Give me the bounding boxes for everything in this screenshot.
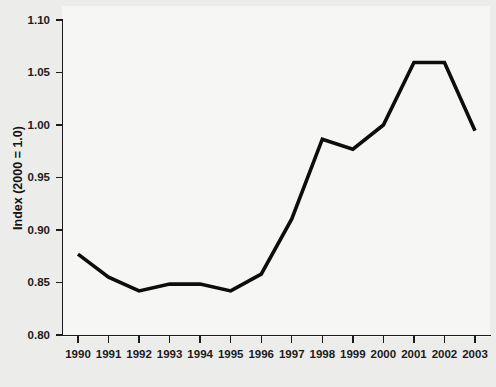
x-tick-label: 2002	[432, 348, 458, 360]
y-axis-title-text: Index (2000 = 1.0)	[11, 126, 25, 230]
data-series-line	[78, 63, 475, 291]
x-tick-label: 1992	[126, 348, 152, 360]
x-tick-label: 1991	[96, 348, 122, 360]
x-axis-ticks	[78, 336, 475, 344]
y-tick-label: 0.85	[28, 276, 51, 288]
y-tick-label: 0.90	[28, 224, 50, 236]
y-tick-label: 0.95	[28, 171, 51, 183]
x-tick-label: 1997	[279, 348, 305, 360]
x-axis: 1990199119921993199419951996199719981999…	[63, 336, 492, 361]
x-tick-label: 1995	[218, 348, 244, 360]
y-axis-tick-labels: 0.800.850.900.951.001.051.10	[28, 14, 51, 341]
y-tick-label: 1.10	[28, 14, 50, 26]
y-tick-label: 1.05	[28, 66, 51, 78]
x-tick-label: 2001	[401, 348, 427, 360]
x-tick-label: 2003	[462, 348, 488, 360]
x-tick-label: 1990	[65, 348, 91, 360]
x-tick-label: 1999	[340, 348, 366, 360]
x-tick-label: 2000	[371, 348, 397, 360]
y-axis-ticks	[56, 20, 63, 335]
x-axis-tick-labels: 1990199119921993199419951996199719981999…	[65, 348, 488, 360]
x-tick-label: 1996	[248, 348, 274, 360]
x-tick-label: 1998	[310, 348, 336, 360]
x-tick-label: 1994	[187, 348, 213, 360]
y-axis-title: Index (2000 = 1.0)	[11, 126, 25, 230]
chart-canvas: 0.800.850.900.951.001.051.10 19901991199…	[0, 0, 496, 387]
y-tick-label: 1.00	[28, 119, 50, 131]
y-tick-label: 0.80	[28, 329, 50, 341]
y-axis: 0.800.850.900.951.001.051.10	[28, 14, 63, 341]
x-tick-label: 1993	[157, 348, 183, 360]
line-chart: 0.800.850.900.951.001.051.10 19901991199…	[0, 0, 496, 387]
